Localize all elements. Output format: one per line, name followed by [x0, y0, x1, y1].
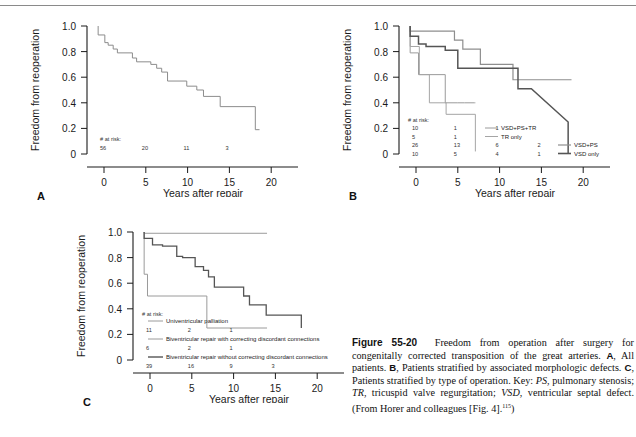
panel-a-risk-numbers: 5620113: [100, 145, 229, 151]
survival-curve: [410, 26, 568, 154]
key-tr-def: , tricuspid valve regurgitation;: [364, 387, 501, 398]
risk-number: 9: [230, 363, 233, 369]
risk-number: 1: [537, 151, 540, 157]
panel-b: 1.0 0.8 0.6 0.4 0.2 0 0 5 10 15 20 Freed…: [330, 12, 630, 197]
y-axis-label: Freedom from reoperation: [29, 29, 41, 151]
panel-a-curves: [98, 26, 259, 130]
panel-c-curves: [144, 232, 301, 328]
risk-number: 4: [496, 151, 499, 157]
x-axis-label: Years after repair: [209, 393, 290, 403]
legend-label: TR only: [501, 134, 522, 140]
risk-number: 2: [188, 345, 191, 351]
panel-b-chart: 1.0 0.8 0.6 0.4 0.2 0 0 5 10 15 20 Freed…: [330, 12, 630, 197]
figure-number: Figure 55-20: [352, 337, 417, 348]
legend-label: VSD+PS+TR: [501, 125, 537, 131]
y-tick-label: 0.8: [108, 253, 122, 264]
figure-caption: Figure 55-20 Freedom from operation afte…: [352, 337, 634, 416]
survival-curve: [98, 26, 259, 130]
y-tick-label: 0.4: [374, 98, 388, 109]
risk-number: 16: [188, 363, 194, 369]
legend-label: VSD+PS: [574, 142, 598, 148]
y-tick-label: 1.0: [62, 21, 76, 32]
x-tick-label: 5: [143, 177, 149, 188]
panel-c-risk-numbers: 1121621391693: [146, 327, 275, 369]
panel-b-legend: VSD+PS+TRTR onlyVSD+PSVSD only: [485, 125, 599, 157]
x-axis-label: Years after repair: [475, 187, 556, 197]
risk-header: # at risk:: [408, 117, 430, 123]
x-tick-label: 20: [266, 177, 278, 188]
key-tr: TR: [352, 387, 364, 398]
risk-number: 3: [225, 145, 228, 151]
y-axis-label: Freedom from reoperation: [341, 29, 353, 151]
risk-number: 2: [188, 327, 191, 333]
risk-number: 20: [142, 145, 148, 151]
y-tick-label: 0.4: [108, 304, 122, 315]
page-top-rule: [0, 5, 636, 6]
caption-end: ): [511, 403, 514, 414]
risk-number: 56: [100, 145, 106, 151]
y-tick-label: 0.8: [374, 47, 388, 58]
risk-number: 26: [412, 142, 418, 148]
survival-curve: [410, 26, 475, 151]
caption-b-text: , Patients stratified by associated morp…: [396, 362, 624, 373]
y-tick-label: 0.2: [62, 123, 76, 134]
x-tick-label: 5: [455, 177, 461, 188]
y-tick-label: 0.6: [108, 278, 122, 289]
legend-label: Biventricular repair with correcting dis…: [166, 336, 319, 342]
y-tick-label: 1.0: [374, 21, 388, 32]
y-tick-label: 0.6: [62, 72, 76, 83]
x-tick-label: 20: [578, 177, 590, 188]
x-tick-label: 5: [189, 383, 195, 394]
x-tick-label: 0: [413, 177, 419, 188]
survival-curve: [144, 232, 267, 233]
y-axis-label: Freedom from reoperation: [75, 235, 87, 357]
y-tick-label: 0: [382, 149, 388, 160]
survival-curve: [144, 232, 301, 328]
y-tick-label: 0.2: [108, 329, 122, 340]
risk-number: 10: [412, 125, 418, 131]
legend-label: Biventricular repair without correcting …: [166, 354, 328, 360]
risk-number: 11: [184, 145, 190, 151]
survival-curve: [410, 26, 475, 103]
risk-number: 6: [496, 142, 499, 148]
risk-number: 3: [271, 363, 274, 369]
risk-number: 5: [412, 134, 415, 140]
y-tick-label: 0.6: [374, 72, 388, 83]
key-vsd: VSD: [501, 387, 520, 398]
x-axis-label: Years after repair: [163, 187, 244, 197]
survival-curve: [410, 26, 571, 80]
y-tick-label: 0.2: [374, 123, 388, 134]
risk-header: # at risk:: [100, 136, 122, 142]
x-tick-label: 0: [147, 383, 153, 394]
risk-number: 10: [412, 151, 418, 157]
risk-number: 2: [537, 142, 540, 148]
panel-letter-a: A: [37, 190, 45, 202]
risk-header: # at risk:: [142, 311, 164, 317]
panel-b-curves: [410, 26, 571, 154]
key-ps: PS: [536, 375, 547, 386]
key-ps-def: , pulmonary stenosis;: [547, 375, 634, 386]
panel-letter-c: C: [83, 396, 91, 408]
panel-c: 1.0 0.8 0.6 0.4 0.2 0 0 5 10 15 20 Freed…: [64, 218, 364, 403]
y-tick-label: 0.4: [62, 98, 76, 109]
risk-number: 1: [230, 327, 233, 333]
x-tick-label: 20: [312, 383, 324, 394]
panel-c-chart: 1.0 0.8 0.6 0.4 0.2 0 0 5 10 15 20 Freed…: [64, 218, 364, 403]
y-tick-label: 0: [70, 149, 76, 160]
risk-number: 1: [454, 125, 457, 131]
x-tick-label: 0: [101, 177, 107, 188]
risk-number: 11: [146, 327, 152, 333]
legend-label: VSD only: [574, 151, 599, 157]
risk-number: 13: [454, 142, 460, 148]
reference-number: 115: [502, 403, 511, 409]
risk-number: 6: [146, 345, 149, 351]
risk-number: 1: [454, 134, 457, 140]
risk-number: 1: [230, 345, 233, 351]
y-tick-label: 1.0: [108, 227, 122, 238]
y-tick-label: 0.8: [62, 47, 76, 58]
legend-label: Univentricular palliation: [166, 318, 228, 324]
risk-number: 5: [454, 151, 457, 157]
panel-letter-b: B: [349, 190, 357, 202]
y-tick-label: 0: [116, 355, 122, 366]
panel-a: 1.0 0.8 0.6 0.4 0.2 0 0 5 10 15 20 Freed…: [18, 12, 318, 197]
